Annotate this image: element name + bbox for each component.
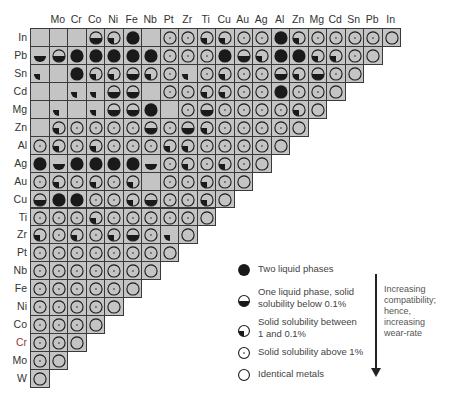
cell-au-ti: [197, 172, 217, 191]
solid-solubility-above-icon: [161, 191, 179, 208]
cell-pb-zn: [289, 46, 309, 65]
cell-cd-zr: [178, 82, 198, 101]
solid-solubility-between-icon: [105, 226, 123, 243]
cell-cu-ti: [197, 190, 217, 209]
solid-solubility-between-icon: [124, 191, 142, 208]
cell-zn-zn: [289, 118, 309, 137]
cell-zn-co: [86, 118, 106, 137]
cell-sn-al: [271, 64, 291, 83]
cell-cu-ni: [104, 190, 124, 209]
row-header: Ti: [0, 211, 27, 223]
solid-solubility-above-icon: [198, 65, 216, 82]
cell-in-pb: [363, 28, 383, 47]
cell-cd-fe: [123, 82, 143, 101]
solid-solubility-above-icon: [68, 280, 86, 297]
row-header: Sn: [0, 67, 27, 79]
solid-solubility-between-icon: [161, 137, 179, 154]
solid-solubility-above-icon: [161, 209, 179, 226]
cell-pb-sn: [345, 46, 365, 65]
cell-cd-cd: [326, 82, 346, 101]
cell-sn-cu: [215, 64, 235, 83]
cell-co-co: [86, 315, 106, 334]
cell-zr-ni: [104, 225, 124, 244]
cell-in-sn: [345, 28, 365, 47]
cell-pt-nb: [141, 243, 161, 262]
cell-fe-cr: [67, 279, 87, 298]
identical-metals-icon: [179, 226, 197, 243]
one-liquid-phase-icon: [105, 101, 123, 118]
solid-solubility-above-icon: [346, 29, 364, 46]
solid-solubility-above-icon: [68, 173, 86, 190]
row-header: Cr: [0, 336, 27, 348]
row-header: Mo: [0, 354, 27, 366]
identical-metals-icon: [68, 334, 86, 351]
cell-zn-cu: [215, 118, 235, 137]
cell-pb-mo: [49, 46, 69, 65]
cell-zn-ag: [252, 118, 272, 137]
solid-solubility-above-icon: [235, 65, 253, 82]
cell-au-co: [86, 172, 106, 191]
solid-solubility-above-icon: [68, 298, 86, 315]
cell-mg-nb: [141, 100, 161, 119]
cell-ni-w: [30, 297, 50, 316]
cell-au-cr: [67, 172, 87, 191]
solid-solubility-above-icon: [124, 137, 142, 154]
cell-sn-mo: [49, 64, 69, 83]
solid-solubility-between-icon: [124, 173, 142, 190]
half-filled-circle-icon: [236, 293, 250, 307]
cell-al-w: [30, 136, 50, 155]
two-liquid-phases-icon: [272, 29, 290, 46]
cell-zr-co: [86, 225, 106, 244]
cell-in-zr: [178, 28, 198, 47]
column-header: Nb: [141, 13, 160, 25]
solid-solubility-above-icon: [216, 119, 234, 136]
row-header: Cd: [0, 85, 27, 97]
solid-solubility-above-icon: [142, 226, 160, 243]
solid-solubility-above-icon: [179, 47, 197, 64]
cell-sn-ag: [252, 64, 272, 83]
cell-mg-cr: [67, 100, 87, 119]
solid-solubility-above-icon: [105, 244, 123, 261]
one-liquid-phase-icon: [124, 226, 142, 243]
arrow-note: Increasing compatibility; hence, increas…: [384, 284, 456, 339]
solid-solubility-between-icon: [31, 65, 49, 82]
dotted-circle-icon: [236, 345, 250, 359]
cell-mg-cu: [215, 100, 235, 119]
solid-solubility-above-icon: [253, 101, 271, 118]
cell-nb-ni: [104, 261, 124, 280]
legend-label-line: Solid solubility between: [258, 316, 357, 327]
cell-al-ag: [252, 136, 272, 155]
column-header: Co: [86, 13, 105, 25]
row-header: Fe: [0, 282, 27, 294]
cell-mg-ni: [104, 100, 124, 119]
cell-pb-al: [271, 46, 291, 65]
cell-ag-w: [30, 154, 50, 173]
one-liquid-phase-icon: [31, 191, 49, 208]
cell-cd-ti: [197, 82, 217, 101]
cell-ag-cu: [215, 154, 235, 173]
solid-solubility-between-icon: [87, 209, 105, 226]
cell-zr-cr: [67, 225, 87, 244]
cell-ag-ti: [197, 154, 217, 173]
cell-ti-nb: [141, 208, 161, 227]
cell-nb-co: [86, 261, 106, 280]
cell-au-ni: [104, 172, 124, 191]
cell-cu-w: [30, 190, 50, 209]
solid-solubility-between-icon: [142, 65, 160, 82]
arrow-note-line: hence,: [384, 306, 411, 316]
solid-solubility-above-icon: [50, 209, 68, 226]
cell-mg-pt: [160, 100, 180, 119]
cell-pt-w: [30, 243, 50, 262]
cell-ag-ag: [252, 154, 272, 173]
one-liquid-phase-icon: [124, 101, 142, 118]
cell-in-ni: [104, 28, 124, 47]
cell-mg-ag: [252, 100, 272, 119]
cell-zr-pt: [160, 225, 180, 244]
cell-pt-fe: [123, 243, 143, 262]
identical-metals-icon: [31, 370, 49, 387]
row-header: Ni: [0, 300, 27, 312]
cell-sn-fe: [123, 64, 143, 83]
solid-solubility-above-icon: [309, 83, 327, 100]
solid-solubility-between-icon: [290, 101, 308, 118]
cell-cd-cu: [215, 82, 235, 101]
